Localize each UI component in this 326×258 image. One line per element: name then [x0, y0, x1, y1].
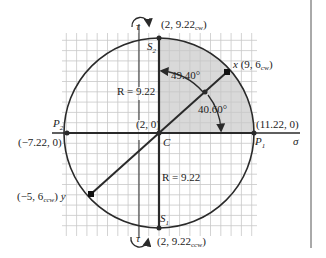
point-y — [88, 191, 94, 197]
s1-label: S1 — [160, 212, 169, 227]
angle-label-49: 49.40° — [171, 69, 200, 81]
point-arc-intersect — [203, 90, 208, 95]
p1-label: P1 — [254, 135, 265, 150]
s1-coords: (2, 9.22ccw) — [157, 235, 206, 249]
point-p2 — [65, 131, 70, 136]
y-label: (−5, 6ccw) y — [17, 190, 66, 204]
p2-coords: (−7.22, 0) — [18, 136, 62, 149]
point-c — [157, 131, 162, 136]
tau-label-bottom: τ — [136, 232, 141, 244]
angle-label-40: 40.60° — [198, 103, 227, 115]
sigma-label: σ — [293, 135, 299, 147]
tau-cw-arrow-icon — [132, 17, 149, 27]
center-coords: (2, 0) — [136, 118, 160, 131]
p2-label: P2 — [52, 117, 64, 132]
point-s1 — [157, 226, 162, 231]
shaded-quadrant — [159, 38, 254, 133]
x-label: x (9, 6cw) — [232, 58, 273, 72]
radius-label-bottom: R = 9.22 — [162, 171, 200, 183]
p1-coords: (11.22, 0) — [256, 118, 299, 131]
center-label: C — [163, 136, 171, 148]
mohr-circle-diagram: τ τ (2, 9.22cw) S2 (2, 9.22ccw) S1 x (9,… — [0, 0, 326, 258]
point-x — [224, 69, 230, 75]
s2-coords: (2, 9.22cw) — [161, 18, 207, 32]
point-s2 — [157, 36, 162, 41]
radius-label-top: R = 9.22 — [117, 85, 155, 97]
tau-label-top: τ — [136, 20, 141, 32]
